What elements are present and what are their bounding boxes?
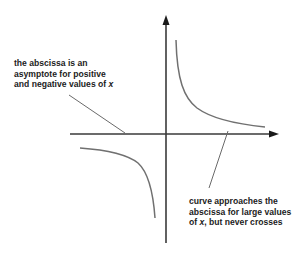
annotation-left: the abscissa is an asymptote for positiv… xyxy=(14,58,113,90)
curve-lower-left xyxy=(80,148,155,218)
curve-upper-right xyxy=(176,40,265,127)
annotation-right-line-1: curve approaches the xyxy=(189,196,291,207)
annotation-right-line-3: of x, but never crosses xyxy=(189,217,291,228)
annotation-right-line-2: abscissa for large values xyxy=(189,207,291,218)
variable-x: x xyxy=(109,79,114,89)
pointer-right xyxy=(209,131,228,188)
pointer-left xyxy=(69,95,125,133)
annotation-left-line-3: and negative values of x xyxy=(14,79,113,90)
annotation-left-line-2: asymptote for positive xyxy=(14,69,113,80)
annotation-right: curve approaches the abscissa for large … xyxy=(189,196,291,228)
x-axis-arrowhead-icon xyxy=(269,131,279,138)
y-axis-arrowhead-icon xyxy=(163,15,170,25)
annotation-left-line-1: the abscissa is an xyxy=(14,58,113,69)
